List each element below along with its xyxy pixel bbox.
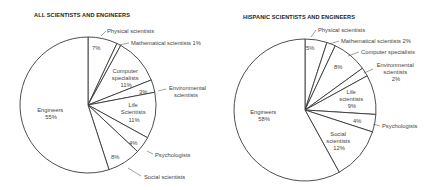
label-mathematical-scientists: Mathematical scientists 2%	[341, 38, 411, 44]
leader-line	[329, 41, 339, 44]
leader-line	[311, 30, 316, 37]
pct-psychologists: 4%	[129, 140, 137, 146]
pct-computer: 8%	[334, 64, 342, 70]
pct-physical: 7%	[92, 45, 100, 51]
label-environmental-scientists: Environmental scientists	[169, 85, 208, 98]
pct-psychologists: 4%	[353, 118, 361, 124]
leader-line	[101, 31, 106, 36]
label-psychologists: Psychologists	[155, 152, 191, 158]
leader-line	[348, 52, 359, 56]
label-computer-specialists: Computer specialists	[361, 49, 415, 55]
pie-charts: Physical scientists 7% Mathematical scie…	[0, 0, 440, 190]
pct-social: 8%	[111, 154, 119, 160]
label-psychologists: Psychologists	[382, 123, 418, 129]
pct-environmental: 3%	[139, 89, 147, 95]
label-physical-scientists: Physical scientists	[107, 28, 154, 34]
leader-line	[364, 69, 373, 73]
leader-line	[119, 43, 129, 45]
pct-physical: 5%	[306, 45, 314, 51]
label-environmental-scientists: Environmental scientists 2%	[377, 62, 416, 82]
leader-line	[158, 89, 166, 91]
leader-line	[147, 151, 153, 154]
label-physical-scientists: Physical scientists	[318, 27, 365, 33]
label-social-scientists: Social scientists	[144, 174, 185, 180]
label-mathematical-scientists: Mathematical scientists 1%	[131, 40, 201, 46]
leader-line	[128, 168, 141, 176]
